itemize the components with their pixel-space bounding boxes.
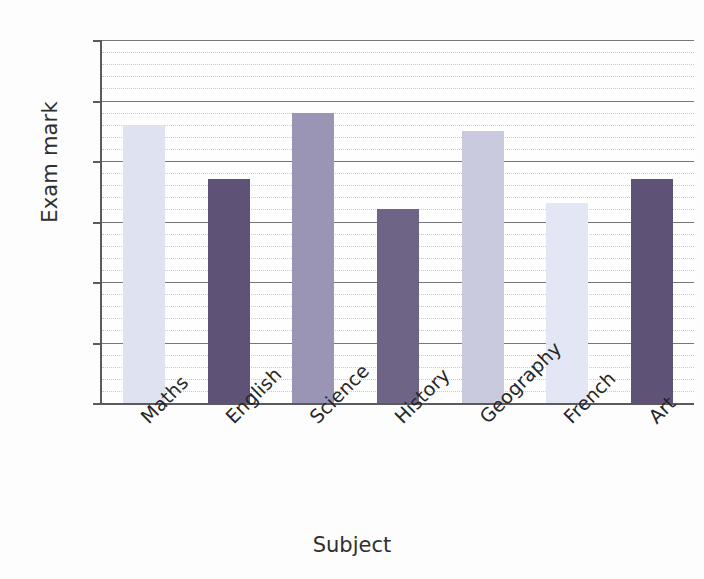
gridline-minor [102, 149, 694, 150]
gridline-major [102, 40, 694, 41]
gridline-minor [102, 125, 694, 126]
plot-area: 0102030405060 [100, 40, 694, 405]
bar-science [292, 113, 334, 403]
bar-chart: Exam mark 0102030405060 MathsEnglishScie… [0, 0, 704, 579]
bar-history [377, 209, 419, 403]
y-tick-mark [93, 161, 102, 163]
gridline-major [102, 101, 694, 102]
gridline-minor [102, 137, 694, 138]
y-axis-title: Exam mark [38, 52, 62, 272]
bar-art [631, 179, 673, 403]
gridline-minor [102, 173, 694, 174]
gridline-minor [102, 76, 694, 77]
gridline-minor [102, 64, 694, 65]
y-tick-mark [93, 101, 102, 103]
gridline-minor [102, 185, 694, 186]
y-tick-mark [93, 40, 102, 42]
bar-maths [123, 125, 165, 403]
gridline-minor [102, 197, 694, 198]
y-tick-mark [93, 343, 102, 345]
y-tick-mark [93, 403, 102, 405]
bar-english [208, 179, 250, 403]
gridline-major [102, 161, 694, 162]
bar-french [546, 203, 588, 403]
y-tick-mark [93, 222, 102, 224]
x-axis-title: Subject [0, 533, 704, 557]
bar-geography [462, 131, 504, 403]
gridline-minor [102, 88, 694, 89]
y-tick-mark [93, 282, 102, 284]
gridline-minor [102, 52, 694, 53]
gridline-minor [102, 113, 694, 114]
